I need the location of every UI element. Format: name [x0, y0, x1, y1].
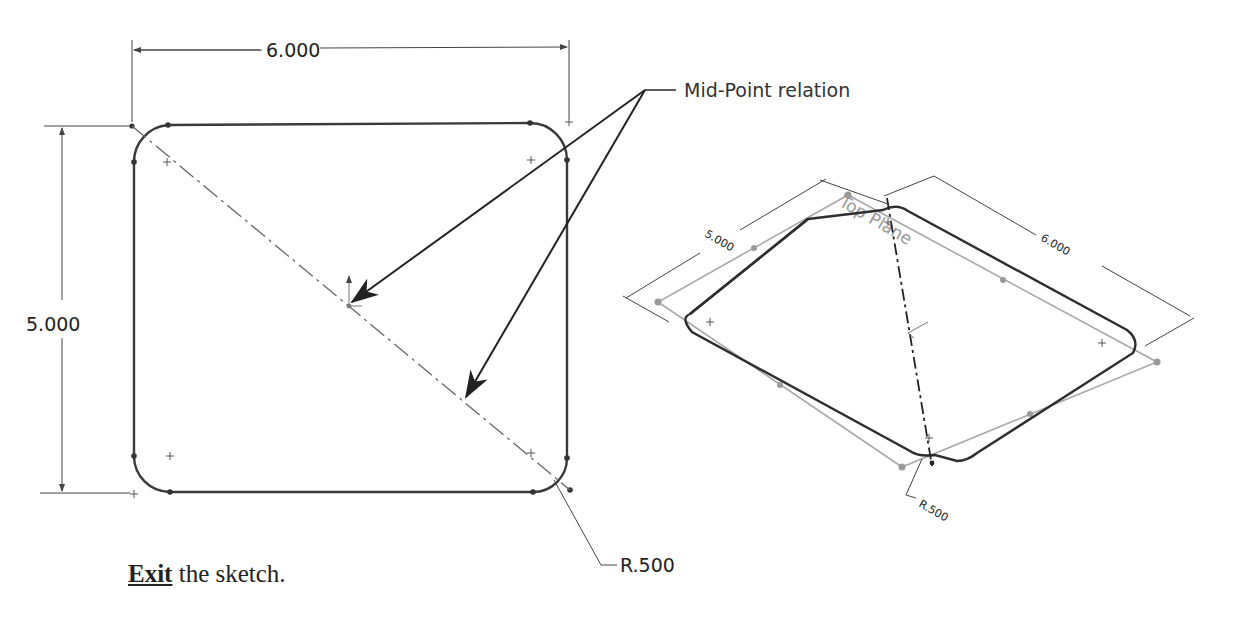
width-dimension-text[interactable]: 6.000 — [266, 39, 320, 61]
construction-diagonal[interactable] — [132, 126, 570, 490]
sketch-canvas: 6.000 5.000 R.500 Mid-Point relation — [0, 0, 1235, 620]
exit-action: Exit — [128, 560, 172, 587]
instruction-text: Exit the sketch. — [128, 560, 286, 588]
instruction-rest: the sketch. — [172, 560, 285, 587]
isometric-view: Top Plane 5.000 — [623, 176, 1194, 524]
iso-height-dimension-text[interactable]: 5.000 — [703, 227, 737, 254]
iso-midpoint-marker — [908, 322, 928, 338]
midpoint-marker — [347, 276, 362, 308]
iso-dimension-radius[interactable]: R.500 — [906, 459, 950, 524]
callout-label: Mid-Point relation — [684, 79, 850, 101]
iso-dimension-width[interactable]: 6.000 — [884, 176, 1194, 346]
radius-dimension-text[interactable]: R.500 — [620, 554, 675, 576]
mid-point-callout: Mid-Point relation — [352, 79, 850, 397]
height-dimension-text[interactable]: 5.000 — [26, 313, 80, 335]
iso-radius-dimension-text[interactable]: R.500 — [917, 497, 951, 524]
iso-width-dimension-text[interactable]: 6.000 — [1039, 231, 1073, 258]
front-view: 6.000 5.000 R.500 — [26, 39, 675, 576]
dimension-height[interactable]: 5.000 — [26, 126, 130, 493]
dimension-radius[interactable]: R.500 — [554, 480, 675, 576]
dimension-width[interactable]: 6.000 — [132, 39, 569, 122]
